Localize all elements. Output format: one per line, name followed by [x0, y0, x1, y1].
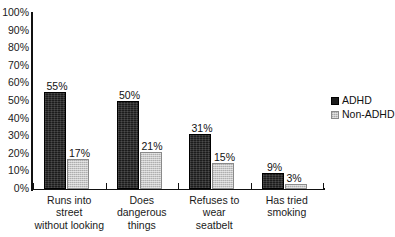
bar-group: 50%21%: [106, 13, 179, 189]
y-axis-tick-text: 10%: [0, 165, 29, 176]
bar-adhd[interactable]: 50%: [117, 101, 139, 189]
bar-adhd[interactable]: 9%: [262, 173, 284, 189]
bar-non-adhd[interactable]: 15%: [212, 163, 234, 189]
bar-non-adhd[interactable]: 21%: [140, 152, 162, 189]
y-axis-tick-text: 50%: [0, 95, 29, 106]
y-axis-tick-text: 90%: [0, 25, 29, 36]
y-axis-tick-text: 30%: [0, 130, 29, 141]
bar-value-label: 55%: [41, 81, 73, 92]
plot-area: 55%17%50%21%31%15%9%3%: [33, 13, 323, 189]
x-axis-category-label: Runs into streetwithout looking: [33, 194, 106, 231]
bar-group: 55%17%: [33, 13, 106, 189]
y-axis-tick-label: 10%: [0, 165, 29, 176]
bar-adhd[interactable]: 55%: [44, 92, 66, 189]
y-axis-tick-label: 100%: [0, 7, 29, 18]
x-axis-tick-mark: [251, 183, 252, 190]
category-label-line: without looking: [33, 219, 106, 231]
chart-legend: ADHDNon-ADHD: [331, 94, 392, 122]
legend-item-label: ADHD: [342, 95, 372, 106]
legend-item[interactable]: ADHD: [331, 94, 392, 107]
bar-non-adhd[interactable]: 3%: [285, 184, 307, 189]
x-axis-category-label: Has triedsmoking: [251, 194, 324, 219]
bar-non-adhd[interactable]: 17%: [67, 159, 89, 189]
y-axis-tick-text: 60%: [0, 77, 29, 88]
x-axis-category-label: Refuses to wearseatbelt: [178, 194, 251, 231]
bar-value-label: 9%: [259, 162, 291, 173]
chart-title: [44, 0, 284, 1]
bar-value-label: 15%: [214, 152, 246, 163]
bar-value-label: 17%: [69, 148, 101, 159]
category-label-line: things: [106, 219, 179, 231]
y-axis-tick-text: 100%: [0, 7, 29, 18]
legend-item[interactable]: Non-ADHD: [331, 108, 392, 121]
legend-item-label: Non-ADHD: [342, 109, 395, 120]
bar-group: 31%15%: [178, 13, 251, 189]
gray-square-swatch: [331, 111, 339, 119]
black-square-swatch: [331, 97, 339, 105]
bar-value-label: 21%: [142, 141, 174, 152]
bar-adhd[interactable]: 31%: [189, 134, 211, 189]
y-axis-tick-text: 20%: [0, 148, 29, 159]
category-label-line: Has tried: [251, 194, 324, 206]
y-axis-tick-label: 20%: [0, 148, 29, 159]
y-axis-tick-label: 80%: [0, 42, 29, 53]
x-axis-tick-mark: [33, 183, 34, 190]
bar-value-label: 50%: [114, 90, 146, 101]
y-axis-tick-label: 50%: [0, 95, 29, 106]
y-axis-tick-text: 80%: [0, 42, 29, 53]
category-label-line: Refuses to wear: [178, 194, 251, 219]
y-axis-tick-label: 0%: [0, 183, 29, 194]
y-axis-tick-text: 70%: [0, 60, 29, 71]
x-axis-category-label: Doesdangerousthings: [106, 194, 179, 231]
y-axis-tick-label: 30%: [0, 130, 29, 141]
y-axis-tick-text: 40%: [0, 113, 29, 124]
x-axis-tick-mark: [323, 183, 324, 190]
category-label-line: Runs into street: [33, 194, 106, 219]
y-axis-tick-label: 90%: [0, 25, 29, 36]
bar-value-label: 31%: [186, 123, 218, 134]
category-label-line: seatbelt: [178, 219, 251, 231]
category-label-line: smoking: [251, 206, 324, 218]
y-axis-tick-label: 40%: [0, 113, 29, 124]
category-label-line: Does: [106, 194, 179, 206]
x-axis-tick-mark: [106, 183, 107, 190]
y-axis-tick-text: 0%: [0, 183, 29, 194]
bar-group: 9%3%: [251, 13, 324, 189]
bar-value-label: 3%: [287, 173, 319, 184]
y-axis-tick-label: 60%: [0, 77, 29, 88]
y-axis-tick-label: 70%: [0, 60, 29, 71]
category-label-line: dangerous: [106, 206, 179, 218]
x-axis-tick-mark: [178, 183, 179, 190]
